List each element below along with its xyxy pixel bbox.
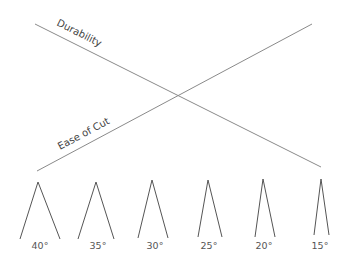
blade-edge-icon: [255, 179, 275, 237]
blade-edge-icon: [78, 182, 114, 239]
blade-profile: 30°: [138, 180, 168, 251]
blade-profile: 40°: [20, 182, 60, 251]
angle-label: 15°: [312, 240, 329, 251]
angle-label: 40°: [32, 240, 49, 251]
blade-edge-icon: [198, 180, 222, 237]
angle-label: 25°: [201, 240, 218, 251]
blade-edge-icon: [314, 179, 329, 235]
blade-edge-icon: [20, 182, 60, 239]
trend-lines: DurabilityEase of Cut: [35, 17, 321, 171]
durability-label: Durability: [55, 17, 104, 49]
blade-angle-diagram: DurabilityEase of Cut 40°35°30°25°20°15°: [0, 0, 347, 269]
durability-trend: Durability: [35, 17, 321, 167]
blade-edge-icon: [138, 180, 168, 238]
blade-profile: 35°: [78, 182, 114, 251]
angle-label: 20°: [256, 240, 273, 251]
angle-label: 30°: [147, 240, 164, 251]
blade-profile: 20°: [255, 179, 275, 251]
angle-label: 35°: [90, 240, 107, 251]
blade-profile: 15°: [312, 179, 329, 251]
blade-profiles: 40°35°30°25°20°15°: [20, 179, 329, 251]
blade-profile: 25°: [198, 180, 222, 251]
